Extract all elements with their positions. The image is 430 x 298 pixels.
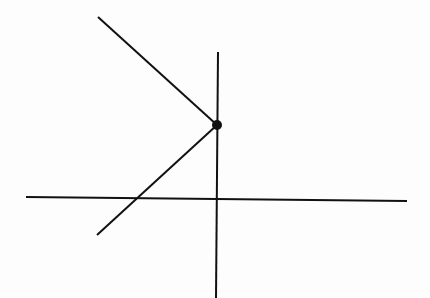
lower-diagonal-ray xyxy=(97,125,217,235)
vertex-point xyxy=(212,120,222,130)
upper-diagonal-ray xyxy=(98,17,217,125)
vertical-axis-line xyxy=(216,52,218,298)
diagram-figure xyxy=(0,0,430,298)
diagram-canvas xyxy=(0,0,430,298)
